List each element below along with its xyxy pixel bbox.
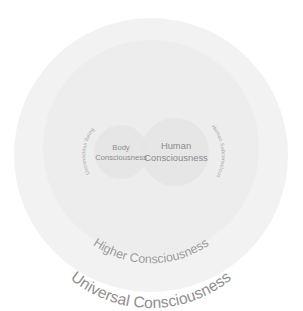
body-consciousness-circle xyxy=(94,125,148,179)
body-consciousness-label-line1: Body xyxy=(112,143,130,152)
human-consciousness-label-line1: Human xyxy=(161,140,191,151)
consciousness-diagram-canvas: Body Consciousness Human Consciousness U… xyxy=(0,0,303,311)
body-consciousness-label-line2: Consciousness xyxy=(95,153,147,162)
consciousness-diagram: Body Consciousness Human Consciousness U… xyxy=(0,0,303,311)
human-consciousness-label-line2: Consciousness xyxy=(144,152,208,163)
